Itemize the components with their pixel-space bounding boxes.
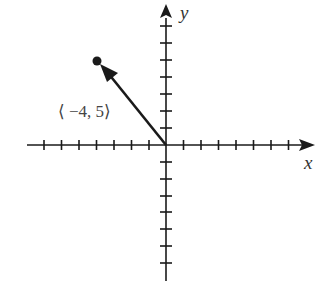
y-axis-label: y: [180, 2, 188, 24]
x-axis-label: x: [304, 152, 312, 174]
vector-arrowhead-icon: [100, 64, 118, 82]
vector-endpoint: [93, 57, 102, 66]
coordinate-plane: [0, 0, 336, 304]
vector-label: ⟨ −4, 5⟩: [58, 101, 111, 122]
vector-line: [108, 73, 166, 145]
y-axis-arrow-icon: [160, 4, 172, 18]
